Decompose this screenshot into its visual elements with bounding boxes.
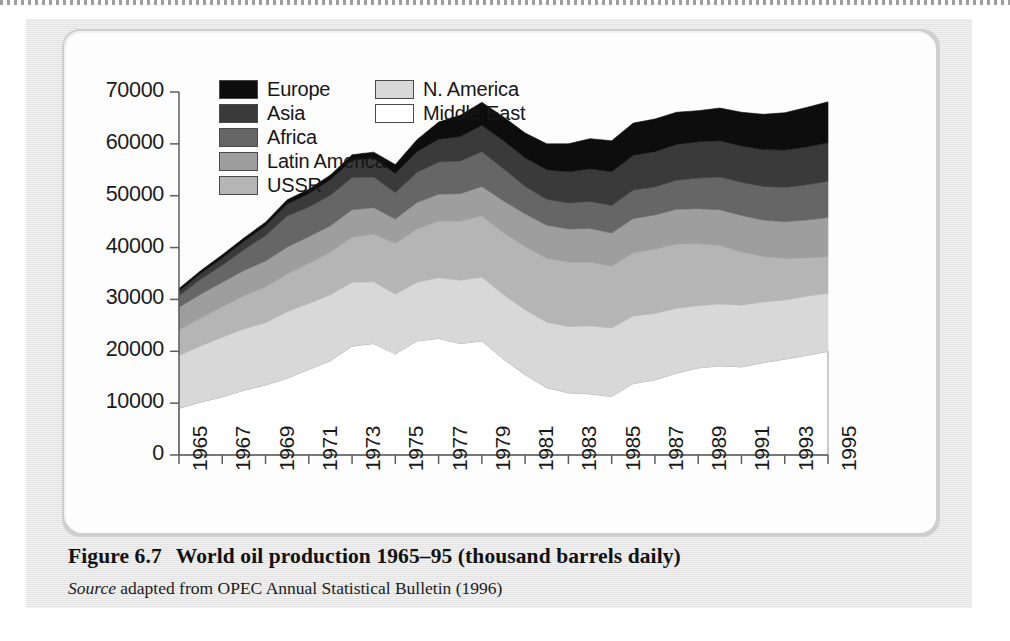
caption-source-label: Source [68,578,116,598]
legend-swatch-africa [219,128,258,147]
legend-label: Middle East [423,102,525,125]
legend-item[interactable]: N. America [375,78,525,100]
y-axis-label: 20000 [66,337,164,362]
legend-item[interactable]: Asia [219,102,386,124]
caption-source-text: adapted from OPEC Annual Statistical Bul… [120,578,502,598]
legend-item[interactable]: Africa [219,126,386,148]
y-axis-label: 0 [66,441,164,466]
legend-label: Europe [267,78,330,101]
y-axis-label: 40000 [66,234,164,259]
legend-label: Asia [267,102,305,125]
caption-title-line: Figure 6.7World oil production 1965–95 (… [68,544,948,569]
x-axis-label: 1975 [404,426,428,471]
y-axis-label: 30000 [66,285,164,310]
x-axis-label: 1991 [750,426,774,471]
x-axis-label: 1993 [794,426,818,471]
legend-label: Africa [267,126,317,149]
caption-title-text: World oil production 1965–95 (thousand b… [176,544,681,568]
legend-item[interactable]: Middle East [375,102,525,124]
legend-item[interactable]: USSR [219,174,386,196]
legend-swatch-n-america [375,80,414,99]
x-axis-label: 1973 [361,426,385,471]
x-axis-label: 1977 [448,426,472,471]
x-axis-label: 1981 [534,426,558,471]
legend-swatch-ussr [219,176,258,195]
x-axis-label: 1985 [621,426,645,471]
caption-source-line: Source adapted from OPEC Annual Statisti… [68,578,948,599]
legend-item[interactable]: Latin America [219,150,386,172]
x-axis-label: 1979 [491,426,515,471]
figure-panel: 7000060000500004000030000200001000001965… [26,19,972,608]
legend-label: USSR [267,174,322,197]
figure-caption: Figure 6.7World oil production 1965–95 (… [68,544,948,599]
scan-edge-decoration-2 [0,5,1010,8]
x-axis-label: 1983 [577,426,601,471]
caption-figure-number: Figure 6.7 [68,544,162,568]
chart-card: 7000060000500004000030000200001000001965… [66,33,936,533]
legend-swatch-latin-america [219,152,258,171]
y-axis-label: 50000 [66,182,164,207]
x-axis-label: 1969 [275,426,299,471]
x-axis-label: 1965 [188,426,212,471]
legend-left-column: EuropeAsiaAfricaLatin AmericaUSSR [219,78,386,198]
legend-label: Latin America [267,150,386,173]
legend-swatch-asia [219,104,258,123]
legend-swatch-europe [219,80,258,99]
x-axis-label: 1987 [664,426,688,471]
y-axis-label: 70000 [66,78,164,103]
y-axis-label: 10000 [66,389,164,414]
legend-item[interactable]: Europe [219,78,386,100]
legend-swatch-middle-east [375,104,414,123]
figure-page: 7000060000500004000030000200001000001965… [0,0,1010,641]
legend-right-column: N. AmericaMiddle East [375,78,525,126]
x-axis-label: 1967 [231,426,255,471]
x-axis-label: 1989 [707,426,731,471]
legend-label: N. America [423,78,519,101]
x-axis-label: 1995 [837,426,861,471]
y-axis-label: 60000 [66,130,164,155]
x-axis-label: 1971 [318,426,342,471]
